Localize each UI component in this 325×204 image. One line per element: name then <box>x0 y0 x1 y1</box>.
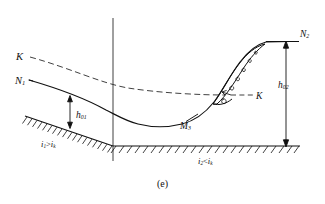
label-m3: M3 <box>180 122 191 132</box>
roller-curl-icon <box>222 99 226 104</box>
label-n1: N1 <box>15 76 25 87</box>
dimension-h02 <box>283 41 288 147</box>
dimension-h01 <box>68 96 73 129</box>
roller-curl-icon-group <box>222 51 258 104</box>
bed-hatching-right <box>111 146 299 153</box>
water-surface-profile <box>29 42 290 127</box>
label-h01: h01 <box>76 111 87 121</box>
hydraulic-jump-diagram <box>0 0 325 204</box>
n1-start-tick <box>29 80 33 81</box>
label-n2: N2 <box>300 30 309 40</box>
label-slope-left: i1>ik <box>41 140 56 149</box>
channel-bed-left <box>25 116 113 146</box>
label-k-right: K <box>256 92 262 102</box>
label-slope-right: i2<ik <box>198 157 213 166</box>
label-h02: h02 <box>278 81 289 91</box>
label-k-left: K <box>16 52 23 63</box>
figure-caption: (e) <box>0 178 325 189</box>
